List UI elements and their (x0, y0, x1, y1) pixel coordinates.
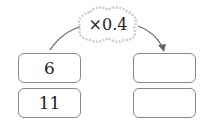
right-arrow-curve (138, 26, 163, 48)
right-box-1[interactable] (133, 53, 196, 83)
left-box-2: 11 (18, 88, 81, 118)
right-box-2[interactable] (133, 88, 196, 118)
arrowhead-icon (158, 44, 166, 52)
left-arrow-curve (50, 26, 82, 50)
left-box-1: 6 (18, 53, 81, 83)
operation-label: ×0.4 (80, 10, 136, 38)
